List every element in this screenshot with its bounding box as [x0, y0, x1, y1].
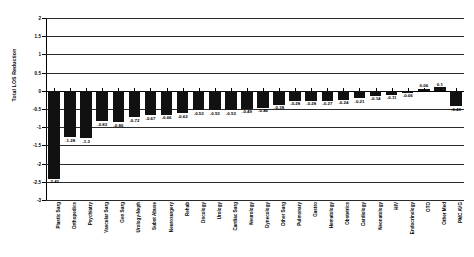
bar-cell[interactable]: -0.83 — [94, 18, 110, 200]
category-label: PMC AVG — [458, 202, 463, 223]
category-label: Neurology — [249, 202, 254, 225]
bar-value-label: -0.06 — [403, 93, 413, 98]
x-tick — [440, 88, 441, 91]
y-tick-label: 1.5 — [35, 34, 41, 39]
bar-value-label: -0.49 — [242, 109, 252, 114]
bar-value-label: -1.3 — [82, 139, 90, 144]
x-tick — [134, 88, 135, 91]
bar[interactable] — [354, 91, 366, 99]
bar-cell[interactable]: -0.28 — [303, 18, 319, 200]
bar[interactable] — [370, 91, 382, 96]
category-label: Subst Abuse — [152, 202, 157, 230]
bar-cell[interactable]: -0.06 — [400, 18, 416, 200]
bar[interactable] — [305, 91, 317, 101]
category-label: Gastro — [313, 202, 318, 217]
x-tick — [70, 88, 71, 91]
category-label: Plastic Surg — [56, 202, 61, 229]
bar[interactable] — [273, 91, 285, 105]
bar[interactable] — [209, 91, 221, 110]
bar[interactable] — [96, 91, 108, 121]
bar-cell[interactable]: -1.3 — [78, 18, 94, 200]
bar[interactable] — [48, 91, 60, 179]
bar-cell[interactable]: -0.62 — [175, 18, 191, 200]
bar-value-label: -0.62 — [178, 114, 188, 119]
bar-value-label: -0.11 — [387, 95, 397, 100]
bar[interactable] — [161, 91, 173, 115]
bar[interactable] — [241, 91, 253, 109]
x-tick — [343, 88, 344, 91]
bar-value-label: -0.66 — [162, 115, 172, 120]
x-tick — [118, 88, 119, 91]
x-tick — [183, 88, 184, 91]
x-tick — [424, 88, 425, 91]
y-tick-label: -1 — [37, 125, 41, 130]
bar-cell[interactable]: -0.27 — [319, 18, 335, 200]
bar-cell[interactable]: -1.28 — [62, 18, 78, 200]
bar-value-label: -2.42 — [49, 179, 59, 184]
bar[interactable] — [145, 91, 157, 115]
category-label: Urology — [217, 202, 222, 219]
bar[interactable] — [177, 91, 189, 114]
category-label: Urology-Neph — [136, 202, 141, 232]
y-tick-label: 0 — [38, 88, 41, 93]
category-label: OTO — [426, 202, 431, 212]
x-tick — [263, 88, 264, 91]
bar-cell[interactable]: -2.42 — [46, 18, 62, 200]
bar-cell[interactable]: 0.1 — [432, 18, 448, 200]
category-label: Cardiology — [361, 202, 366, 226]
bar-cell[interactable]: -0.24 — [335, 18, 351, 200]
bar-cell[interactable]: -0.49 — [239, 18, 255, 200]
y-tick-label: 2 — [38, 16, 41, 21]
y-tick-label: -2 — [37, 161, 41, 166]
bar[interactable] — [386, 91, 398, 95]
x-tick — [215, 88, 216, 91]
bar-cell[interactable]: -0.46 — [255, 18, 271, 200]
bar-cell[interactable]: -0.53 — [207, 18, 223, 200]
x-tick — [327, 88, 328, 91]
category-label: Endocrinology — [410, 202, 415, 234]
bar-cell[interactable]: -0.86 — [110, 18, 126, 200]
bar[interactable] — [450, 91, 462, 107]
bar[interactable] — [129, 91, 141, 117]
category-label: Pulmonary — [297, 202, 302, 226]
bar[interactable] — [338, 91, 350, 100]
bar-cell[interactable]: -0.67 — [142, 18, 158, 200]
bar-cell[interactable]: -0.38 — [271, 18, 287, 200]
bar[interactable] — [225, 91, 237, 110]
bars-layer: -2.42-1.28-1.3-0.83-0.86-0.72-0.67-0.66-… — [46, 18, 464, 200]
bar-cell[interactable]: -0.53 — [223, 18, 239, 200]
bar-cell[interactable]: -0.72 — [126, 18, 142, 200]
y-tick-label: -1.5 — [33, 143, 41, 148]
x-tick — [279, 88, 280, 91]
category-label: Rehab — [185, 202, 190, 216]
bar-cell[interactable]: -0.11 — [384, 18, 400, 200]
y-tick-label: -2.5 — [33, 179, 41, 184]
bar[interactable] — [289, 91, 301, 101]
bar[interactable] — [322, 91, 334, 101]
bar-cell[interactable]: -0.28 — [287, 18, 303, 200]
x-tick — [199, 88, 200, 91]
bar-cell[interactable]: -0.14 — [368, 18, 384, 200]
category-label: Gynecology — [265, 202, 270, 228]
bar-cell[interactable]: -0.43 — [448, 18, 464, 200]
bar-value-label: -0.43 — [451, 107, 461, 112]
bar-cell[interactable]: 0.06 — [416, 18, 432, 200]
category-labels: Plastic SurgOrthopedicsPsychiatryVascula… — [46, 202, 464, 257]
bar[interactable] — [80, 91, 92, 138]
bar-value-label: -0.14 — [371, 96, 381, 101]
bar[interactable] — [193, 91, 205, 110]
bar-value-label: 0.1 — [437, 82, 443, 87]
x-tick — [102, 88, 103, 91]
bar[interactable] — [64, 91, 76, 138]
bar[interactable] — [113, 91, 125, 122]
bar-cell[interactable]: -0.53 — [191, 18, 207, 200]
category-label: Vascular Surg — [104, 202, 109, 233]
chart-root: Total LOS Reduction 21.510.50-0.5-1-1.5-… — [0, 0, 474, 257]
bar[interactable] — [257, 91, 269, 108]
bar-value-label: -0.72 — [129, 118, 139, 123]
bar-cell[interactable]: -0.66 — [159, 18, 175, 200]
x-tick — [311, 88, 312, 91]
x-tick — [150, 88, 151, 91]
y-axis-title: Total LOS Reduction — [11, 30, 17, 120]
bar-cell[interactable]: -0.21 — [351, 18, 367, 200]
